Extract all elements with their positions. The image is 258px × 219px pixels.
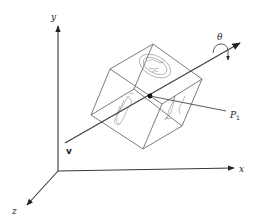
point-p1-label-sub: 1 [236,114,240,121]
rotation-axis-line [65,43,240,143]
z-axis-label: z [11,206,17,216]
rotation-diagram: y x z v [0,0,258,219]
point-p1-label: P1 [229,110,240,121]
x-axis-label: x [239,164,244,174]
face-sketch-top [135,49,174,83]
cube-edge-front-right [162,79,202,104]
cube-edge-back-up [134,44,153,89]
cube-edge-back-left [91,89,134,115]
rotation-angle: θ [213,32,228,60]
coordinate-axes: y x z [11,12,244,216]
vector-v-label: v [66,146,72,156]
theta-label: θ [217,32,223,42]
x-axis [58,168,234,171]
cube-edge-back-right [134,89,182,126]
z-axis [27,171,58,205]
y-axis-label: y [50,12,57,22]
cube-edge-front-down [143,104,162,149]
